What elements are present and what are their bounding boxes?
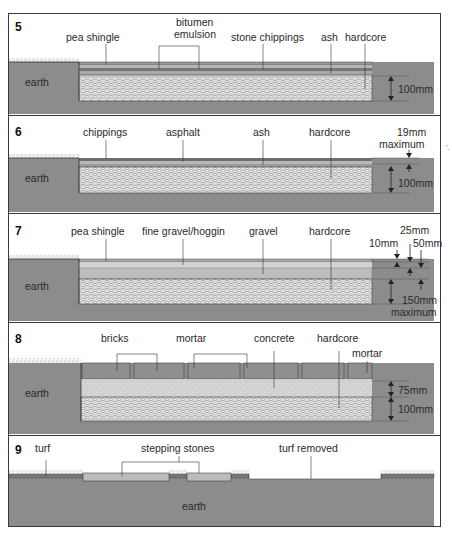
label-earth: earth — [25, 387, 49, 399]
dimension-maximum: maximum — [379, 138, 425, 150]
dimension-100mm: 100mm — [398, 177, 433, 189]
dimension-100mm: 100mm — [398, 83, 433, 95]
label-pea-shingle: pea shingle — [71, 225, 125, 237]
label-emulsion: emulsion — [174, 28, 216, 40]
label-ash: ash — [321, 31, 338, 43]
label-ash: ash — [253, 126, 270, 138]
panel-8: 8 bricks mortar concrete hardcore mortar… — [9, 323, 440, 436]
label-turf-removed: turf removed — [279, 442, 338, 454]
label-hardcore: hardcore — [317, 332, 359, 344]
label-hardcore: hardcore — [309, 126, 351, 138]
label-asphalt: asphalt — [166, 126, 200, 138]
panel-7-drawing: 7 pea shingle fine gravel/hoggin gravel … — [9, 214, 442, 323]
panel-9-drawing: 9 turf stepping stones turf removed eart… — [9, 436, 442, 528]
label-hardcore: hardcore — [345, 31, 387, 43]
panel-number: 9 — [15, 443, 22, 457]
panel-6-drawing: 6 chippings asphalt ash hardcore earth 1… — [9, 116, 442, 214]
panel-8-drawing: 8 bricks mortar concrete hardcore mortar… — [9, 323, 442, 436]
label-concrete: concrete — [254, 332, 294, 344]
label-hardcore: hardcore — [309, 225, 351, 237]
panel-9: 9 turf stepping stones turf removed eart… — [9, 436, 440, 528]
panel-number: 6 — [15, 125, 22, 139]
dimension-maximum: maximum — [391, 306, 437, 318]
label-fine-gravel-hoggin: fine gravel/hoggin — [142, 225, 225, 237]
label-pea-shingle: pea shingle — [66, 31, 120, 43]
stray-mark: '. — [446, 143, 450, 152]
panel-5-drawing: 5 pea shingle bitumen emulsion stone chi… — [9, 14, 442, 116]
label-earth: earth — [25, 172, 49, 184]
label-earth: earth — [182, 500, 206, 512]
dimension-19mm: 19mm — [397, 126, 426, 138]
dimension-150mm: 150mm — [402, 294, 437, 306]
dimension-50mm: 50mm — [413, 237, 442, 249]
label-turf: turf — [35, 442, 50, 454]
panel-7: 7 pea shingle fine gravel/hoggin gravel … — [9, 214, 440, 323]
panel-5: 5 pea shingle bitumen emulsion stone chi… — [9, 14, 440, 116]
dimension-100mm: 100mm — [398, 403, 433, 415]
label-chippings: chippings — [83, 126, 127, 138]
label-bricks: bricks — [101, 332, 128, 344]
label-earth: earth — [25, 280, 49, 292]
diagram-frame: 5 pea shingle bitumen emulsion stone chi… — [8, 13, 441, 527]
label-bitumen: bitumen — [176, 16, 214, 28]
label-stone-chippings: stone chippings — [231, 31, 304, 43]
panel-number: 8 — [15, 332, 22, 346]
panel-number: 5 — [15, 20, 22, 34]
panel-6: 6 chippings asphalt ash hardcore earth 1… — [9, 116, 440, 214]
label-mortar: mortar — [176, 332, 207, 344]
label-earth: earth — [25, 76, 49, 88]
label-gravel: gravel — [249, 225, 278, 237]
label-stepping-stones: stepping stones — [141, 442, 215, 454]
dimension-75mm: 75mm — [398, 384, 427, 396]
label-mortar-right: mortar — [352, 347, 383, 359]
panel-number: 7 — [15, 224, 22, 238]
dimension-10mm: 10mm — [369, 237, 398, 249]
dimension-25mm: 25mm — [400, 224, 429, 236]
